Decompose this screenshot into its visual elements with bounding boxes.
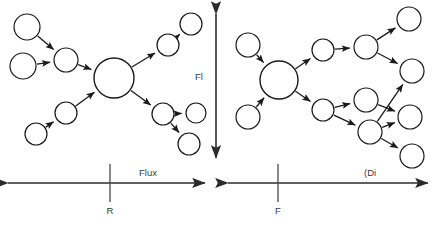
graph-node — [152, 103, 174, 125]
graph-node — [94, 58, 134, 98]
right-network-graph — [236, 7, 424, 168]
graph-edge — [296, 59, 311, 69]
graph-edge — [37, 62, 50, 64]
graph-edge — [38, 36, 54, 50]
graph-node — [236, 33, 260, 57]
graph-node — [312, 99, 334, 121]
graph-node — [55, 102, 77, 124]
graph-node — [180, 13, 202, 35]
graph-edge — [296, 91, 311, 101]
graph-node — [400, 59, 424, 83]
graph-node — [398, 105, 422, 129]
graph-edge — [78, 65, 91, 70]
graph-edge — [171, 123, 179, 132]
node-group — [236, 7, 424, 168]
graph-edge — [377, 28, 396, 40]
graph-node — [178, 133, 200, 155]
graph-edge — [382, 123, 395, 128]
graph-edge — [132, 53, 155, 67]
graph-edge — [335, 48, 350, 49]
left-axis-tick-label: R — [107, 205, 114, 216]
graph-node — [157, 34, 179, 56]
graph-edge — [381, 138, 398, 148]
graph-edge — [335, 104, 351, 108]
node-group — [10, 13, 206, 155]
graph-node — [236, 105, 260, 129]
graph-edge — [334, 115, 355, 125]
right-axis-label: (Di — [364, 167, 376, 178]
graph-node — [260, 61, 298, 99]
left-horizontal-axis: Flux R — [8, 164, 205, 216]
graph-edge — [76, 92, 95, 106]
graph-node — [354, 88, 378, 112]
graph-edge — [378, 53, 398, 64]
left-axis-label: Flux — [139, 167, 157, 178]
right-horizontal-axis: (Di F — [228, 164, 428, 216]
graph-node — [186, 103, 206, 123]
graph-edge — [131, 90, 151, 105]
graph-node — [54, 48, 78, 72]
graph-edge — [256, 98, 264, 107]
graph-edge — [177, 34, 180, 37]
network-diagram: Fl Flux R (Di F — [0, 0, 434, 232]
right-axis-tick-label: F — [275, 205, 281, 216]
graph-node — [358, 120, 382, 144]
graph-node — [397, 7, 421, 31]
left-network-graph — [10, 13, 206, 155]
vertical-axis-label: Fl — [195, 71, 203, 82]
graph-node — [354, 35, 378, 59]
graph-node — [14, 14, 40, 40]
diagram-canvas: Fl Flux R (Di F — [0, 0, 434, 232]
vertical-double-arrow-axis: Fl — [195, 14, 216, 158]
graph-edge — [46, 122, 54, 127]
graph-edge — [257, 55, 264, 63]
graph-node — [400, 144, 424, 168]
graph-node — [25, 123, 47, 145]
graph-node — [10, 53, 36, 79]
graph-node — [312, 39, 334, 61]
